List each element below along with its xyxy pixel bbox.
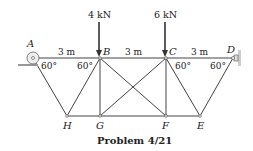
node-label-A: A [26, 38, 34, 49]
joint-C [165, 57, 168, 60]
angle-A: 60° [41, 61, 57, 71]
truss-diagram: 4 kN 6 kN A B C D E F G H 3 m 3 m 3 m 60… [0, 0, 253, 151]
node-label-B: B [102, 46, 110, 57]
node-label-F: F [161, 120, 170, 131]
node-label-C: C [169, 46, 177, 57]
node-label-E: E [196, 120, 205, 131]
angle-B: 60° [77, 61, 93, 71]
load-arrow-C [162, 22, 168, 57]
dimension-BC: 3 m [125, 47, 143, 57]
joint-E [199, 115, 202, 118]
load-label-B: 4 kN [88, 9, 111, 20]
node-label-D: D [226, 44, 235, 55]
roller-support-icon [18, 52, 39, 65]
truss-members [33, 58, 233, 116]
load-arrow-B [96, 22, 102, 57]
joint-B [99, 57, 102, 60]
joint-H [66, 115, 69, 118]
figure-caption: Problem 4/21 [97, 135, 172, 146]
angle-C: 60° [175, 61, 191, 71]
node-label-H: H [62, 120, 72, 131]
dimension-AB: 3 m [58, 47, 76, 57]
joint-G [99, 115, 102, 118]
load-label-C: 6 kN [154, 9, 177, 20]
angle-D: 60° [210, 61, 226, 71]
dimension-CD: 3 m [191, 47, 209, 57]
node-label-G: G [96, 120, 104, 131]
joint-F [165, 115, 168, 118]
